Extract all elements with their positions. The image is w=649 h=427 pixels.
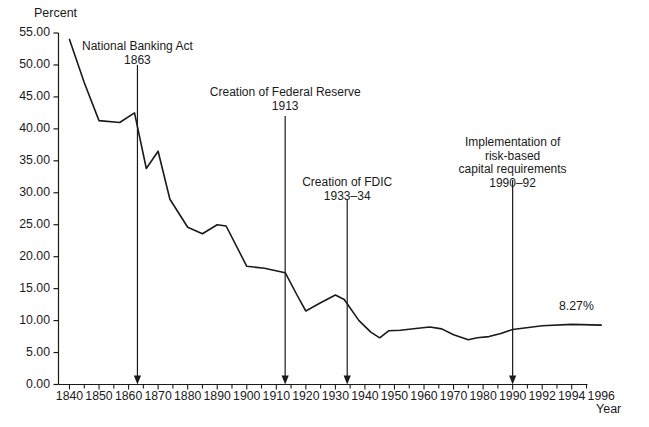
annotation-line: capital requirements — [188, 163, 649, 177]
annotation-line: Creation of Federal Reserve — [0, 86, 610, 100]
y-tick-label: 20.00 — [2, 249, 50, 263]
annotation-creation-of-federal-reserve: Creation of Federal Reserve 1913 — [0, 86, 610, 113]
annotation-line: 1913 — [0, 100, 610, 114]
y-tick-label: 40.00 — [2, 121, 50, 135]
annotation-line: National Banking Act — [0, 40, 462, 54]
annotation-line: Implementation of — [188, 136, 649, 150]
annotation-line: 1990–92 — [188, 177, 649, 191]
y-tick-label: 55.00 — [2, 25, 50, 39]
annotation-line: risk-based — [188, 150, 649, 164]
annotation-line: 1933–34 — [23, 190, 649, 204]
chart-container: Percent Year 0.005.0010.0015.0020.0025.0… — [0, 0, 649, 427]
y-tick-label: 10.00 — [2, 313, 50, 327]
y-tick-label: 25.00 — [2, 217, 50, 231]
annotation-risk-based-capital-requirements: Implementation of risk-based capital req… — [188, 136, 649, 190]
x-tick-label: 1996 — [577, 389, 625, 403]
y-tick-label: 35.00 — [2, 153, 50, 167]
y-tick-label: 5.00 — [2, 345, 50, 359]
annotation-national-banking-act: National Banking Act 1863 — [0, 40, 462, 67]
y-tick-label: 15.00 — [2, 281, 50, 295]
y-tick-label: 0.00 — [2, 377, 50, 391]
end-value-label: 8.27% — [559, 299, 594, 313]
annotation-line: 1863 — [0, 54, 462, 68]
